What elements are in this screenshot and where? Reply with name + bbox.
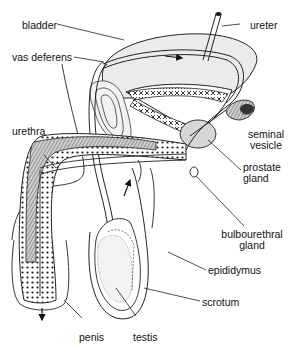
label-seminal-vesicle-line2: vesicle	[244, 140, 288, 151]
label-prostate-gland-line2: gland	[243, 173, 281, 184]
reproductive-system-diagram: bladder ureter vas deferens urethra semi…	[0, 0, 294, 347]
label-prostate-gland: prostate gland	[243, 162, 281, 184]
label-epididymus: epididymus	[208, 265, 261, 276]
label-testis: testis	[133, 332, 158, 343]
ejaculatory-duct	[126, 84, 232, 132]
bulbourethral-gland-shape	[190, 167, 198, 177]
label-bulbourethral-gland: bulbourethral gland	[218, 229, 286, 251]
label-bulbourethral-gland-line2: gland	[218, 240, 286, 251]
label-vas-deferens: vas deferens	[12, 52, 72, 63]
label-urethra: urethra	[12, 126, 45, 137]
label-ureter: ureter	[250, 20, 277, 31]
seminal-vesicle-shape	[226, 100, 254, 120]
label-seminal-vesicle: seminal vesicle	[244, 129, 288, 151]
label-bladder: bladder	[22, 20, 57, 31]
label-penis: penis	[79, 332, 104, 343]
label-scrotum: scrotum	[202, 297, 239, 308]
